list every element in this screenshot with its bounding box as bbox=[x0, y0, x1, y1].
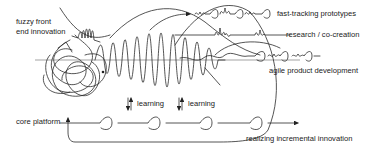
label-fuzzy-front-2: end innovation bbox=[16, 27, 65, 36]
label-realizing: realizing incremental innovation bbox=[246, 134, 352, 143]
innovation-diagram: fuzzy front end innovation fast-tracking… bbox=[0, 0, 373, 151]
oscillation-wave bbox=[60, 5, 260, 87]
core-platform-track bbox=[60, 117, 298, 130]
research-track bbox=[175, 28, 290, 36]
feedback-loop bbox=[68, 12, 276, 142]
label-agile: agile product development bbox=[269, 66, 358, 75]
label-learning-2: learning bbox=[188, 99, 215, 108]
fast-tracking-track bbox=[150, 8, 270, 30]
agile-track bbox=[180, 42, 320, 85]
diagram-drawing bbox=[0, 0, 373, 151]
label-fast-tracking: fast-tracking prototypes bbox=[277, 9, 356, 18]
label-fuzzy-front-1: fuzzy front bbox=[16, 17, 51, 26]
fuzzy-scribble bbox=[43, 35, 106, 96]
label-research: research / co-creation bbox=[286, 30, 359, 39]
label-learning-1: learning bbox=[137, 99, 164, 108]
label-core-platform: core platform bbox=[16, 117, 60, 126]
